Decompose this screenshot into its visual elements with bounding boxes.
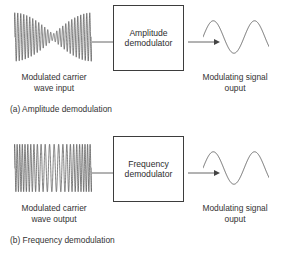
demodulation-block-diagram-figure: Amplitude demodulator Modulated carrier … [0,0,281,262]
am-output-label-line-1: Modulating signal [190,72,280,83]
am-output-label-line-2: ouput [190,83,280,94]
demodulator-box-line-2: demodulator [125,38,173,48]
fm-output-label-line-2: ouput [190,214,280,225]
panel-caption-a: (a) Amplitude demodulation [10,104,112,114]
fm-input-label-line-2: wave output [6,214,102,225]
fm-input-label-line-1: Modulated carrier [6,203,102,214]
am-output-sine-waveform [203,10,269,64]
am-input-label-line-2: wave input [6,83,102,94]
fm-output-label-line-1: Modulating signal [190,203,280,214]
demodulator-box-line-1: Amplitude [129,28,167,38]
am-output-label: Modulating signal ouput [190,72,280,94]
fm-input-waveform [14,141,92,195]
demodulator-box-line-2: demodulator [125,169,173,179]
am-input-label-line-1: Modulated carrier [6,72,102,83]
panel-caption-b: (b) Frequency demodulation [10,235,115,245]
fm-input-label: Modulated carrier wave output [6,203,102,225]
panel-frequency-demodulation: Frequency demodulator Modulated carrier … [0,131,281,262]
signal-chain-frequency: Frequency demodulator [0,135,281,201]
fm-output-sine-waveform [203,141,269,195]
signal-chain-amplitude: Amplitude demodulator [0,4,281,70]
frequency-demodulator-box: Frequency demodulator [113,136,184,202]
am-input-waveform [14,10,92,64]
fm-output-label: Modulating signal ouput [190,203,280,225]
demodulator-box-line-1: Frequency [128,159,169,169]
panel-amplitude-demodulation: Amplitude demodulator Modulated carrier … [0,0,281,131]
am-input-label: Modulated carrier wave input [6,72,102,94]
amplitude-demodulator-box: Amplitude demodulator [113,5,184,71]
